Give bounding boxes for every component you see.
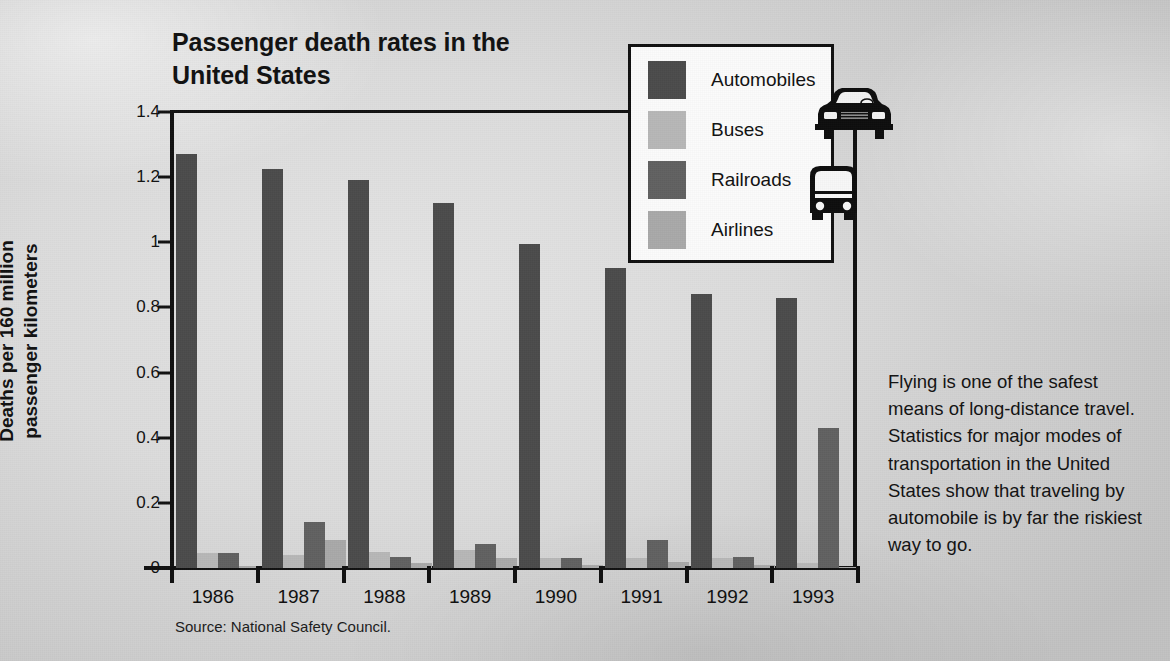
bar-group [348, 112, 432, 568]
bar-buses-1991 [626, 558, 647, 568]
bar-buses-1990 [540, 558, 561, 568]
x-axis-tick-label-1988: 1988 [363, 586, 405, 608]
bar-automobiles-1989 [433, 203, 454, 568]
bar-railroads-1989 [475, 544, 496, 568]
legend-item-buses[interactable]: Buses [648, 111, 764, 149]
bar-automobiles-1993 [776, 298, 797, 568]
bar-automobiles-1991 [605, 268, 626, 568]
bar-group [519, 112, 603, 568]
bar-buses-1992 [712, 558, 733, 568]
figure-page: Passenger death rates in the United Stat… [0, 0, 1170, 661]
bar-group [433, 112, 517, 568]
legend-label: Buses [711, 119, 764, 141]
x-axis-tick-label-1989: 1989 [449, 586, 491, 608]
figure-caption: Flying is one of the safest means of lon… [888, 368, 1146, 558]
y-axis-tick-label: 0.4 [136, 428, 160, 448]
bar-railroads-1991 [647, 540, 668, 568]
y-axis-tick-label: 0.6 [136, 363, 160, 383]
legend-swatch-airlines [648, 211, 686, 249]
legend-label: Automobiles [711, 69, 816, 91]
legend-item-automobiles[interactable]: Automobiles [648, 61, 816, 99]
bar-automobiles-1992 [691, 294, 712, 568]
x-axis-tick-mark [513, 566, 517, 583]
y-axis-tick-label: 1.2 [136, 167, 160, 187]
legend-label: Airlines [711, 219, 773, 241]
bar-railroads-1988 [390, 557, 411, 568]
legend-swatch-buses [648, 111, 686, 149]
x-axis-tick-mark [170, 566, 174, 583]
chart-title: Passenger death rates in the United Stat… [172, 26, 642, 93]
x-axis-tick-label-1987: 1987 [277, 586, 319, 608]
x-axis-tick-label-1993: 1993 [792, 586, 834, 608]
bar-buses-1993 [797, 563, 818, 568]
bar-automobiles-1987 [262, 169, 283, 568]
x-axis-tick-mark [856, 566, 860, 583]
bus-front-icon [806, 164, 861, 222]
bar-buses-1988 [369, 552, 390, 568]
x-axis-tick-label-1990: 1990 [535, 586, 577, 608]
legend-item-railroads[interactable]: Railroads [648, 161, 791, 199]
x-axis-tick-label-1991: 1991 [620, 586, 662, 608]
x-axis-tick-mark [599, 566, 603, 583]
bar-automobiles-1986 [176, 154, 197, 568]
legend-item-airlines[interactable]: Airlines [648, 211, 773, 249]
bar-automobiles-1990 [519, 244, 540, 568]
bar-buses-1989 [454, 550, 475, 568]
bar-group [262, 112, 346, 568]
legend-swatch-automobiles [648, 61, 686, 99]
y-axis-tick-label: 0.2 [136, 493, 160, 513]
bar-buses-1987 [283, 555, 304, 568]
y-axis-title: Deaths per 160 million passenger kilomet… [0, 196, 44, 486]
bar-railroads-1986 [218, 553, 239, 568]
x-axis-tick-label-1986: 1986 [192, 586, 234, 608]
bar-group [176, 112, 260, 568]
x-axis-tick-mark [685, 566, 689, 583]
bar-railroads-1993 [818, 428, 839, 568]
bar-automobiles-1988 [348, 180, 369, 568]
legend-label: Railroads [711, 169, 791, 191]
chart-legend: AutomobilesBusesRailroadsAirlines [628, 44, 834, 263]
x-axis-tick-mark [427, 566, 431, 583]
bar-railroads-1990 [561, 558, 582, 568]
bar-airlines-1987 [325, 540, 346, 568]
source-note: Source: National Safety Council. [175, 618, 391, 635]
legend-swatch-railroads [648, 161, 686, 199]
car-front-icon [812, 86, 896, 142]
y-axis-tick-labels: 00.20.40.60.811.21.4 [108, 0, 160, 661]
bar-railroads-1987 [304, 522, 325, 568]
bar-railroads-1992 [733, 557, 754, 568]
bar-buses-1986 [197, 553, 218, 568]
x-axis-tick-mark [770, 566, 774, 583]
x-axis-tick-label-1992: 1992 [706, 586, 748, 608]
x-axis-tick-mark [256, 566, 260, 583]
y-axis-tick-label: 0.8 [136, 297, 160, 317]
y-axis-tick-label: 1.4 [136, 102, 160, 122]
x-axis-tick-mark [342, 566, 346, 583]
